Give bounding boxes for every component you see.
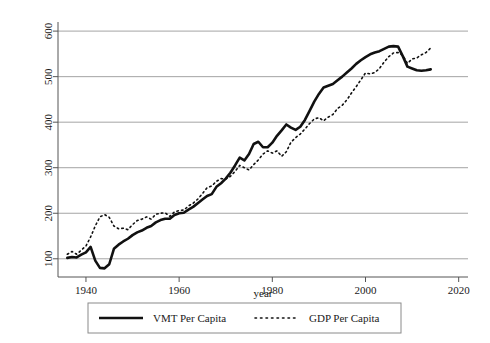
x-tick-label-1940: 1940: [75, 284, 98, 296]
y-tick-label-100: 100: [42, 250, 54, 267]
y-tick-label-400: 400: [42, 113, 54, 130]
legend: VMT Per Capita GDP Per Capita: [88, 303, 401, 333]
y-tick-label-500: 500: [42, 68, 54, 85]
legend-label-gdp-per-capita: GDP Per Capita: [309, 312, 380, 324]
y-tick-label-600: 600: [42, 22, 54, 39]
x-axis-title: year: [254, 287, 273, 299]
x-tick-label-1960: 1960: [168, 284, 191, 296]
legend-label-vmt-per-capita: VMT Per Capita: [153, 312, 226, 324]
chart-figure: 100200300400500600 19401960198020002020 …: [0, 0, 490, 343]
figure-background: [0, 0, 490, 343]
y-tick-label-300: 300: [42, 159, 54, 176]
y-tick-label-200: 200: [42, 205, 54, 222]
x-tick-label-2020: 2020: [448, 284, 471, 296]
x-tick-label-2000: 2000: [355, 284, 378, 296]
